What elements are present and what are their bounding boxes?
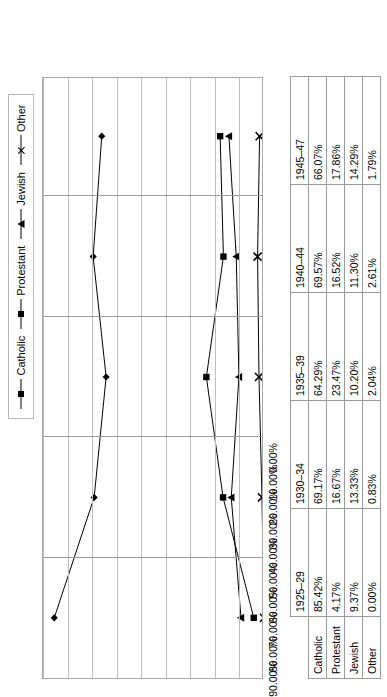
- legend-item-jewish[interactable]: Jewish: [15, 172, 27, 239]
- legend-key-other: [15, 135, 27, 165]
- gridline-horizontal: [117, 78, 118, 678]
- table-cell: 17.86%: [327, 77, 345, 185]
- data-table: 1925–291930–341935–391940–441945–47 Cath…: [290, 76, 381, 679]
- table-cell: 13.33%: [345, 401, 363, 509]
- table-cell: 16.67%: [327, 401, 345, 509]
- triangle-marker-icon: [18, 220, 25, 228]
- datapoint-catholic-3: [90, 253, 97, 260]
- category-separator: [43, 557, 262, 558]
- legend-key-protestant: [15, 299, 27, 329]
- table-row-header: Other: [363, 617, 381, 679]
- table-row: Other0.00%0.83%2.04%2.61%1.79%: [363, 77, 381, 679]
- legend-label: Other: [16, 105, 27, 133]
- table-column-header: 1930–34: [291, 401, 309, 509]
- datapoint-protestant-2: [203, 374, 209, 380]
- plot-area: [42, 77, 263, 679]
- table-cell: 9.37%: [345, 509, 363, 617]
- chart-legend: CatholicProtestantJewishOther: [8, 94, 34, 419]
- series-other: [254, 132, 263, 622]
- table-row-header: Catholic: [309, 617, 327, 679]
- data-table-body: Catholic85.42%69.17%64.29%69.57%66.07%Pr…: [309, 77, 381, 679]
- legend-key-catholic: [15, 379, 27, 409]
- gridline-horizontal: [166, 78, 167, 678]
- legend-item-other[interactable]: Other: [15, 105, 27, 166]
- category-separator: [43, 195, 262, 196]
- diamond-marker-icon: [18, 391, 24, 397]
- table-column-header: 1940–44: [291, 185, 309, 293]
- cross-marker-icon: [17, 146, 26, 155]
- legend-label: Protestant: [16, 246, 27, 296]
- table-row-header: Protestant: [327, 617, 345, 679]
- legend-label: Catholic: [16, 336, 27, 376]
- table-column-header: 1935–39: [291, 293, 309, 401]
- table-cell: 1.79%: [363, 77, 381, 185]
- series-protestant: [203, 133, 257, 621]
- category-separator: [43, 316, 262, 317]
- table-cell: 2.04%: [363, 293, 381, 401]
- table-cell: 85.42%: [309, 509, 327, 617]
- datapoint-other-0: [260, 614, 263, 622]
- table-column-header: 1945–47: [291, 77, 309, 185]
- table-cell: 10.20%: [345, 293, 363, 401]
- datapoint-protestant-3: [220, 253, 226, 259]
- datapoint-protestant-1: [220, 494, 226, 500]
- table-column-header: 1925–29: [291, 509, 309, 617]
- gridline-horizontal: [239, 78, 240, 678]
- series-catholic: [51, 133, 110, 622]
- table-row: Protestant4.17%16.67%23.47%16.52%17.86%: [327, 77, 345, 679]
- gridline-horizontal: [92, 78, 93, 678]
- data-table-head: 1925–291930–341935–391940–441945–47: [291, 77, 309, 679]
- datapoint-catholic-2: [103, 373, 110, 380]
- table-cell: 4.17%: [327, 509, 345, 617]
- table-cell: 69.17%: [309, 401, 327, 509]
- datapoint-catholic-0: [51, 614, 58, 621]
- series-line-protestant: [206, 136, 253, 618]
- square-marker-icon: [18, 311, 24, 317]
- table-cell: 14.29%: [345, 77, 363, 185]
- table-row: Catholic85.42%69.17%64.29%69.57%66.07%: [309, 77, 327, 679]
- series-line-catholic: [54, 136, 106, 618]
- datapoint-protestant-0: [251, 615, 257, 621]
- table-cell: 66.07%: [309, 77, 327, 185]
- datapoint-jewish-1: [227, 493, 234, 501]
- datapoint-other-1: [258, 493, 263, 501]
- legend-item-catholic[interactable]: Catholic: [15, 336, 27, 409]
- table-cell: 2.61%: [363, 185, 381, 293]
- legend-label: Jewish: [16, 172, 27, 206]
- legend-key-jewish: [15, 209, 27, 239]
- table-cell: 11.30%: [345, 185, 363, 293]
- category-separator: [43, 436, 262, 437]
- datapoint-catholic-4: [98, 133, 105, 140]
- gridline-horizontal: [141, 78, 142, 678]
- table-cell: 0.00%: [363, 509, 381, 617]
- series-jewish: [225, 132, 244, 622]
- table-cell: 23.47%: [327, 293, 345, 401]
- legend-item-protestant[interactable]: Protestant: [15, 246, 27, 329]
- table-cell: 64.29%: [309, 293, 327, 401]
- table-corner-cell: [291, 617, 309, 679]
- data-table-header-row: 1925–291930–341935–391940–441945–47: [291, 77, 309, 679]
- table-row: Jewish9.37%13.33%10.20%11.30%14.29%: [345, 77, 363, 679]
- datapoint-protestant-4: [217, 133, 223, 139]
- series-svg: [43, 77, 263, 678]
- y-axis-tick-label: 90.00%: [268, 661, 279, 697]
- gridline-horizontal: [43, 78, 44, 678]
- table-cell: 0.83%: [363, 401, 381, 509]
- gridline-horizontal: [215, 78, 216, 678]
- table-cell: 16.52%: [327, 185, 345, 293]
- table-cell: 69.57%: [309, 185, 327, 293]
- gridline-horizontal: [190, 78, 191, 678]
- gridline-horizontal: [68, 78, 69, 678]
- table-row-header: Jewish: [345, 617, 363, 679]
- y-axis-tick-labels: 0.00%10.00%20.00%30.00%40.00%50.00%60.00…: [265, 77, 287, 679]
- datapoint-jewish-4: [225, 132, 232, 140]
